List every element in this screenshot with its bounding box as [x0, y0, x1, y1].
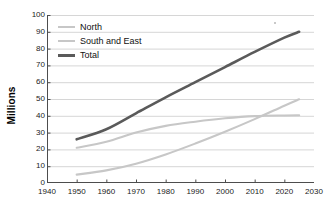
x-axis-tick-labels: 1940195019601970198019902000201020202030 — [47, 188, 314, 202]
legend-swatch-line-icon — [58, 40, 75, 42]
legend-item[interactable]: South and East — [58, 34, 178, 48]
legend-item-label: South and East — [80, 37, 142, 46]
y-axis-tick-label: 30 — [23, 129, 45, 137]
y-axis-tick-label: 90 — [23, 28, 45, 36]
y-axis-tick-labels: 1009080706050403020100 — [20, 15, 45, 183]
y-axis-tick-label: 60 — [23, 78, 45, 86]
legend-item-label: Total — [80, 51, 99, 60]
legend-item[interactable]: North — [58, 20, 178, 34]
y-axis-tick-label: 70 — [23, 61, 45, 69]
y-axis-tick-label: 20 — [23, 145, 45, 153]
legend-swatch-line-icon — [58, 54, 75, 57]
legend-swatch-line-icon — [58, 26, 75, 28]
y-axis-tick-label: 80 — [23, 45, 45, 53]
y-axis-tick-label: 50 — [23, 95, 45, 103]
y-axis-tick-label: 100 — [23, 11, 45, 19]
y-axis-tick-label: 0 — [23, 179, 45, 187]
y-axis-title-text: Millions — [6, 86, 17, 124]
y-axis-tick-label: 40 — [23, 112, 45, 120]
series-line — [77, 99, 299, 174]
series-line — [77, 115, 299, 147]
legend-item-label: North — [80, 23, 102, 32]
y-axis-title: Millions — [2, 0, 20, 210]
legend-item[interactable]: Total — [58, 48, 178, 62]
chart-legend: NorthSouth and EastTotal — [58, 20, 178, 62]
stray-mark — [274, 22, 276, 24]
y-axis-tick-label: 10 — [23, 162, 45, 170]
x-axis-tick-label: 2030 — [297, 188, 328, 196]
